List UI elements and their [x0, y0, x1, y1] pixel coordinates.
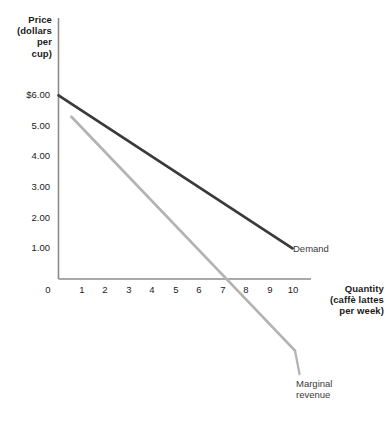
y-tick-label-1: 1.00 [4, 242, 50, 253]
y-axis-title: Price (dollars per cup) [0, 14, 52, 59]
x-tick-label-9: 9 [260, 284, 280, 295]
x-tick-label-2: 2 [95, 284, 115, 295]
demand-series-label: Demand [293, 243, 329, 254]
x-tick-label-8: 8 [236, 284, 256, 295]
marginal-revenue-series-label: Marginal revenue [296, 378, 366, 400]
x-tick-label-0: 0 [38, 284, 58, 295]
marginal-revenue-leader [295, 351, 300, 374]
plot-area [0, 0, 386, 425]
x-tick-label-1: 1 [72, 284, 92, 295]
x-tick-label-5: 5 [166, 284, 186, 295]
x-tick-label-6: 6 [189, 284, 209, 295]
y-tick-label-6: $6.00 [4, 89, 50, 100]
x-tick-label-10: 10 [283, 284, 303, 295]
y-tick-label-2: 2.00 [4, 212, 50, 223]
y-tick-label-5: 5.00 [4, 120, 50, 131]
x-tick-label-3: 3 [119, 284, 139, 295]
y-tick-label-4: 4.00 [4, 150, 50, 161]
x-axis-title: Quantity (caffè lattes per week) [296, 283, 384, 317]
chart-figure: Price (dollars per cup) Quantity (caffè … [0, 0, 386, 425]
x-tick-label-7: 7 [213, 284, 233, 295]
x-tick-label-4: 4 [142, 284, 162, 295]
y-tick-label-3: 3.00 [4, 181, 50, 192]
marginal-revenue-line [71, 117, 295, 351]
